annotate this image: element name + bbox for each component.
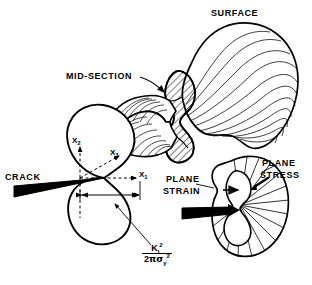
plastic-zone-size-formula: KI2 2πσy2 bbox=[142, 243, 172, 264]
mid-section-label: MID-SECTION bbox=[66, 71, 132, 81]
plane-stress-label-line1: PLANE bbox=[262, 158, 296, 168]
axis-label-x2: X2 bbox=[72, 136, 81, 146]
crack-tip-plastic-zone bbox=[67, 105, 134, 245]
surface-plastic-zone bbox=[182, 23, 298, 148]
plane-stress-label-line2: STRESS bbox=[260, 170, 300, 180]
crack-tip-label-line1: CRACK bbox=[5, 172, 41, 182]
axis-label-x1: X1 bbox=[139, 170, 148, 180]
plane-strain-label-line1: PLANE bbox=[166, 174, 200, 184]
surface-label: SURFACE bbox=[211, 8, 258, 18]
mid-section-leader bbox=[140, 77, 164, 92]
plane-strain-label-line2: STRAIN bbox=[163, 186, 200, 196]
formula-denominator: 2πσy2 bbox=[142, 254, 172, 264]
fracture-plastic-zone-figure: SURFACE MID-SECTION CRACK TIP PLANE STRA… bbox=[0, 0, 312, 285]
axis-label-x3: X3 bbox=[110, 148, 119, 158]
crack-tip-label-line2: TIP bbox=[17, 184, 33, 194]
